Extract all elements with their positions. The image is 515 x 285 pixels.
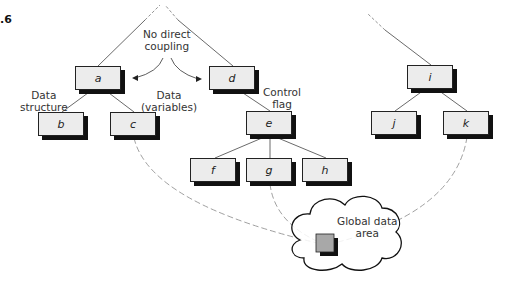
module-label: c bbox=[110, 112, 156, 136]
module-k: k bbox=[443, 111, 489, 135]
module-label: j bbox=[371, 111, 417, 135]
module-b: b bbox=[38, 112, 84, 136]
label-line: Control bbox=[263, 86, 301, 98]
figure-number: .6 bbox=[0, 13, 12, 26]
label-line: flag bbox=[263, 98, 301, 110]
module-g: g bbox=[246, 158, 292, 182]
module-c: c bbox=[110, 112, 156, 136]
module-label: f bbox=[190, 158, 236, 182]
data-variables-label: Data (variables) bbox=[141, 89, 197, 113]
label-line: Global data bbox=[337, 215, 397, 227]
module-label: b bbox=[38, 112, 84, 136]
module-f: f bbox=[190, 158, 236, 182]
label-line: Data bbox=[20, 89, 68, 101]
module-label: h bbox=[302, 158, 348, 182]
module-h: h bbox=[302, 158, 348, 182]
label-line: No direct bbox=[143, 28, 191, 40]
module-label: d bbox=[209, 66, 255, 90]
module-j: j bbox=[371, 111, 417, 135]
module-label: i bbox=[407, 65, 453, 89]
module-i: i bbox=[407, 65, 453, 89]
data-structure-label: Data structure bbox=[20, 89, 68, 113]
label-line: coupling bbox=[143, 40, 191, 52]
module-a: a bbox=[75, 66, 121, 90]
module-label: e bbox=[246, 111, 292, 135]
module-label: a bbox=[75, 66, 121, 90]
label-line: Data bbox=[141, 89, 197, 101]
module-label: g bbox=[246, 158, 292, 182]
no-direct-coupling-label: No direct coupling bbox=[143, 28, 191, 52]
module-e: e bbox=[246, 111, 292, 135]
control-flag-label: Control flag bbox=[263, 86, 301, 110]
module-label: k bbox=[443, 111, 489, 135]
coupling-diagram-lines bbox=[0, 0, 515, 285]
module-d: d bbox=[209, 66, 255, 90]
label-line: area bbox=[337, 227, 397, 239]
global-data-area-label: Global data area bbox=[337, 215, 397, 239]
